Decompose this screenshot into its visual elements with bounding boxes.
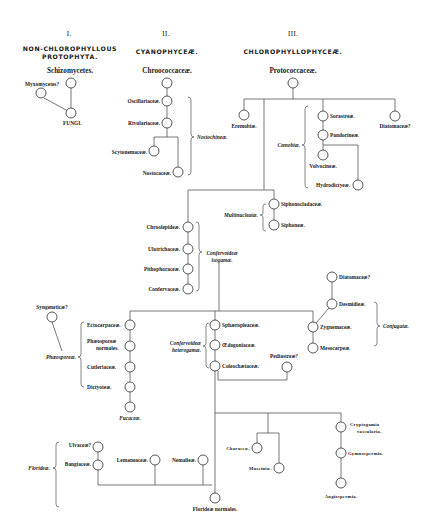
label-nemalieae: Nemalieæ.	[172, 457, 197, 463]
label-oscillariaceae: Oscillariaceæ.	[128, 98, 161, 104]
label-dictyoteae: Dictyoteæ.	[87, 384, 112, 390]
label-volvocineae: Volvocineæ.	[309, 163, 337, 169]
group-conjugatae: Conjugatæ.	[383, 323, 409, 329]
label-coleochaetaceae: Coleochætaceæ.	[222, 363, 260, 369]
label-syngeneticae: Syngeneticæ?	[36, 304, 68, 310]
node-labels: Myxomycetes? FUNGI. Oscillariaceæ. Rivul…	[25, 81, 411, 512]
label-sorastreae: Sorastreæ.	[330, 113, 355, 119]
label-sphaeropleaceae: Sphæropleaceæ.	[222, 322, 260, 328]
label-lemaneaceae: Lemaneaceæ.	[117, 457, 149, 463]
column-header-I: I. NON-CHLOROPHYLLOUS PROTOPHYTA. Schizo…	[23, 30, 117, 75]
label-scytonemaceae: Scytonemaceæ.	[112, 149, 148, 155]
label-gymnospermia: Gymnospermia.	[348, 451, 383, 456]
label-fucaceae: Fucaceæ.	[119, 415, 141, 421]
label-oedogoniaceae: Œdogoniaceæ.	[222, 342, 256, 348]
label-florideae-normales: Florideæ normales.	[193, 506, 238, 512]
label-fungi: FUNGI.	[63, 120, 82, 126]
label-nostocaceae: Nostocaceæ.	[143, 170, 172, 176]
column-title: NON-CHLOROPHYLLOUS	[23, 45, 117, 52]
label-confervaceae: Confervaceæ.	[148, 286, 180, 292]
label-musciniae: Musciniæ.	[249, 466, 272, 471]
group-confervoideae-isogamae: isogamæ.	[211, 257, 232, 263]
label-pandorineae: Pandorineæ.	[330, 132, 360, 138]
column-numeral: III.	[288, 30, 299, 38]
label-hydrodictyeae: Hydrodictyeæ.	[316, 182, 351, 188]
label-cutleriaceae: Cutleriaceæ.	[87, 364, 117, 370]
column-subtitle: Chroococcaceæ.	[142, 67, 192, 75]
label-siphonocladaceae: Siphonocladaceæ.	[281, 201, 323, 207]
label-siphoneae: Siphoneæ.	[281, 222, 305, 228]
label-angiospermia: Angiospermia.	[325, 494, 358, 499]
label-diatomaceae-mid: Diatomaceæ?	[339, 274, 370, 280]
label-bangiaceae: Bangiaceæ.	[65, 461, 92, 467]
label-desmidieae: Desmidieæ.	[339, 301, 366, 307]
label-rivulariaceae: Rivulariaceæ.	[128, 120, 161, 126]
label-ectocarpaceae: Ectocarpaceæ.	[87, 322, 121, 328]
group-coenobiae: Cœnobiæ.	[277, 142, 300, 148]
label-cryptogamia-vascularia: Cryptogamia	[350, 422, 380, 427]
group-confervoideae-heterogamae: heterogamæ.	[172, 347, 201, 353]
column-title: CHLOROPHYLLOPHYCEÆ.	[243, 48, 342, 55]
label-zygnemaceae: Zygnemaceæ.	[320, 324, 352, 330]
column-header-III: III. CHLOROPHYLLOPHYCEÆ. Protococcaceæ.	[243, 30, 342, 75]
label-characeae: Characeæ.	[226, 446, 250, 451]
label-mesocarpeae: Mesocarpeæ.	[320, 345, 351, 351]
group-phaeosporeae: Phæosporeæ.	[46, 354, 76, 360]
label-diatomaceae-top: Diatomaceæ?	[379, 123, 410, 129]
label-chroolepideae: Chroolepideæ.	[146, 224, 180, 230]
phylogeny-diagram: I. NON-CHLOROPHYLLOUS PROTOPHYTA. Schizo…	[0, 0, 435, 529]
label-ulotrichaceae: Ulotrichaceæ.	[148, 246, 181, 252]
column-numeral: I.	[67, 30, 72, 38]
column-title: CYANOPHYCEÆ.	[136, 48, 199, 55]
label-cryptogamia-vascularia: vascularia.	[357, 429, 382, 434]
group-multinucleatae: Multinucleatæ.	[223, 212, 258, 218]
column-title: PROTOPHYTA.	[42, 53, 98, 60]
label-myxomycetes: Myxomycetes?	[25, 81, 59, 87]
nodes	[36, 78, 400, 503]
column-numeral: II.	[162, 30, 170, 38]
column-subtitle: Protococcaceæ.	[269, 67, 316, 75]
label-eremobiae: Eremobiæ.	[231, 123, 257, 129]
column-header-II: II. CYANOPHYCEÆ. Chroococcaceæ.	[136, 30, 199, 75]
label-phaeosporeae-normales: normales.	[96, 345, 119, 351]
label-phaeosporeae-normales: Phæosporeæ	[87, 338, 116, 344]
label-pediastreae: Pediastreæ?	[270, 353, 298, 359]
group-confervoideae-heterogamae: Confervoideæ	[170, 340, 201, 346]
group-confervoideae-isogamae: Confervoideæ	[206, 250, 237, 256]
group-florideae: Florideæ.	[28, 465, 50, 471]
group-nostochineae: Nostochineæ.	[196, 134, 227, 140]
label-ulvaceae: Ulvaceæ?	[69, 442, 91, 448]
label-pithophoraceae: Pithophoraceæ.	[144, 266, 181, 272]
column-subtitle: Schizomycetes.	[47, 67, 93, 75]
